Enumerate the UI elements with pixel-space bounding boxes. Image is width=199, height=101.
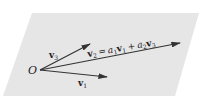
origin-label: O: [28, 64, 37, 77]
diagram-canvas: O v3 v1 v2=a1v1+a2v3: [0, 0, 199, 101]
